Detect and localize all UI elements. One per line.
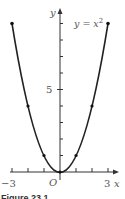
x-axis-arrow-icon: [113, 170, 119, 175]
figure-caption: Figure 23.1: [1, 193, 49, 199]
origin-label: O: [49, 177, 57, 188]
y-tick-label-5: 5: [46, 84, 52, 95]
x-axis-label: x: [114, 178, 120, 189]
parabola-figure: y x O −3 3 5 y = x2 Figure 23.1: [0, 0, 125, 199]
y-axis: [57, 8, 63, 180]
x-tick-label-3: 3: [104, 178, 110, 189]
parabola-chart: y x O −3 3 5 y = x2: [0, 0, 125, 199]
y-axis-arrow-icon: [58, 8, 63, 14]
x-tick-label-neg3: −3: [1, 178, 16, 189]
equation-label: y = x2: [73, 17, 103, 29]
y-axis-label: y: [49, 7, 56, 18]
